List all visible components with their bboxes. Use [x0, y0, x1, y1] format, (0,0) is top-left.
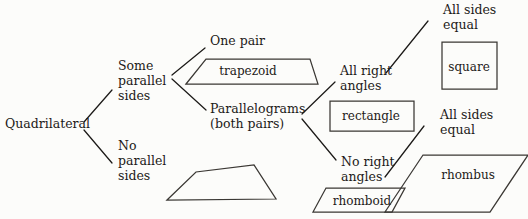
branch-label-all-right-angles: All right angles	[339, 63, 392, 93]
connector-some-parallel-to-one-pair	[172, 48, 205, 75]
branch-label-no-right-angles-line-2: angles	[341, 169, 382, 184]
branch-label-all-right-angles-line-2: angles	[340, 78, 381, 93]
branch-label-all-sides-equal-top-line-1: All sides	[442, 2, 496, 17]
connector-all-right-angles-to-all-sides-equal	[386, 21, 428, 73]
connector-parallelograms-to-no-right-angles	[302, 119, 336, 160]
branch-label-all-right-angles-line-1: All right	[339, 63, 392, 78]
rhomboid-shape-label: rhomboid	[333, 194, 392, 208]
branch-label-all-sides-equal-top-line-2: equal	[443, 17, 478, 32]
branch-label-parallelograms: Parallelograms (both pairs)	[210, 101, 305, 131]
irregular-quadrilateral-shape-outline	[167, 165, 276, 200]
branch-label-parallelograms-line-1: Parallelograms	[210, 101, 305, 116]
node-quadrilateral: Quadrilateral	[5, 116, 90, 131]
branch-label-all-sides-equal-bottom-line-2: equal	[440, 122, 475, 137]
connector-no-right-angles-to-all-sides-equal	[385, 126, 424, 177]
figure-trapezoid: trapezoid	[186, 59, 318, 84]
branch-label-no-parallel-sides: No parallel sides	[118, 138, 166, 183]
branch-label-no-right-angles: No right angles	[341, 154, 395, 184]
quadrilateral-classification-diagram: Quadrilateral Some parallel sides No par…	[0, 0, 528, 219]
branch-label-parallelograms-line-2: (both pairs)	[210, 116, 284, 131]
branch-label-one-pair-line-1: One pair	[210, 33, 265, 48]
branch-label-some-parallel-sides: Some parallel sides	[118, 58, 166, 103]
branch-label-all-sides-equal-bottom-line-1: All sides	[439, 107, 493, 122]
rhombus-shape-outline	[385, 155, 528, 212]
branch-label-all-sides-equal-top: All sides equal	[442, 2, 496, 32]
branch-label-one-pair: One pair	[210, 33, 265, 48]
branch-label-no-parallel-sides-line-1: No	[118, 138, 136, 153]
branch-label-no-parallel-sides-line-3: sides	[118, 168, 150, 183]
branch-label-some-parallel-sides-line-1: Some	[118, 58, 153, 73]
figure-rhombus: rhombus	[385, 155, 528, 212]
trapezoid-shape-label: trapezoid	[219, 64, 277, 78]
branch-label-all-sides-equal-bottom: All sides equal	[439, 107, 493, 137]
rectangle-shape-label: rectangle	[342, 109, 400, 123]
branch-label-no-parallel-sides-line-2: parallel	[118, 153, 166, 168]
figure-rhomboid: rhomboid	[313, 188, 405, 212]
figure-square: square	[442, 42, 497, 89]
diagram-canvas: Quadrilateral Some parallel sides No par…	[0, 0, 528, 219]
branch-label-some-parallel-sides-line-3: sides	[118, 88, 150, 103]
figure-irregular-quadrilateral	[167, 165, 276, 200]
square-shape-label: square	[448, 60, 490, 74]
branch-label-some-parallel-sides-line-2: parallel	[118, 73, 166, 88]
rhombus-shape-label: rhombus	[441, 168, 495, 182]
connector-root-to-no-parallel	[84, 130, 112, 163]
branch-label-no-right-angles-line-1: No right	[341, 154, 395, 169]
figure-rectangle: rectangle	[330, 101, 414, 131]
